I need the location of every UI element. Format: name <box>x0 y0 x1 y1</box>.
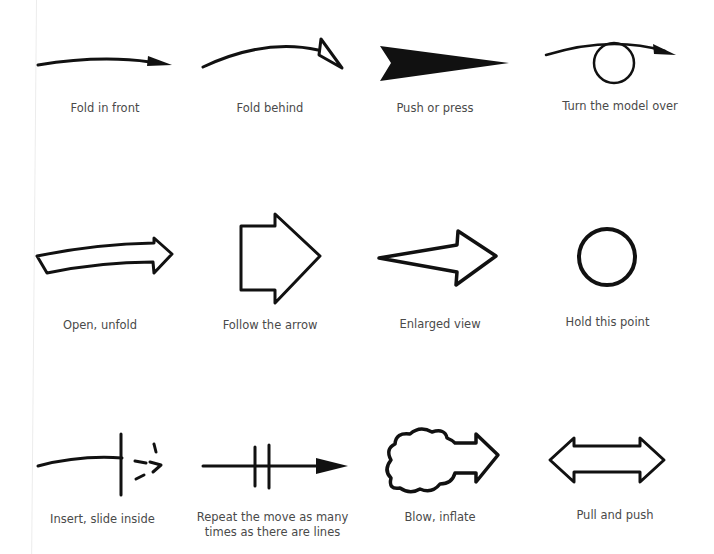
pull-push-double-arrow-icon <box>0 0 714 554</box>
symbol-label: Pull and push <box>565 508 665 523</box>
